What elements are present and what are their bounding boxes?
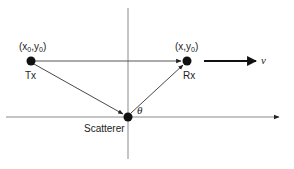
angle-theta-label: θ: [137, 104, 143, 116]
scattering-geometry-diagram: (x0,y0) Tx (x,y0) Rx Scatterer θ v: [0, 0, 294, 169]
rx-label: Rx: [183, 70, 195, 81]
scatterer-node: [124, 113, 133, 122]
tx-coordinate-label: (x0,y0): [19, 41, 46, 53]
velocity-label: v: [261, 54, 266, 66]
rx-node: [183, 57, 192, 66]
incident-path-tx-to-scatterer: [34, 64, 123, 114]
scatterer-label: Scatterer: [84, 123, 125, 134]
tx-label: Tx: [25, 70, 36, 81]
tx-node: [27, 57, 36, 66]
rx-coordinate-label: (x,y0): [175, 41, 198, 53]
